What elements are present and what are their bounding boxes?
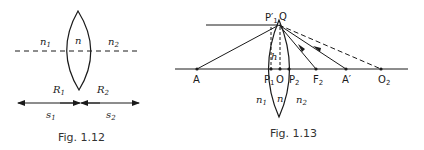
label-P2: P2 [289,74,300,87]
label-n2: n2 [296,94,307,107]
caption-fig-1-13: Fig. 1.13 [270,127,317,140]
point-P1 [269,67,272,70]
label-n: n [277,93,283,104]
label-O: O [276,74,284,85]
arrow-on-Aprime-ray [313,46,321,52]
label-F2: F2 [313,74,323,87]
label-h: h [271,51,277,62]
label-n1: n1 [256,94,267,107]
label-Pprime: P′1 [265,12,278,25]
point-P2 [287,67,290,70]
label-s1: s1 [46,109,56,122]
point-O [278,67,281,70]
label-n1: n1 [40,36,51,49]
label-n: n [75,35,81,46]
point-O2 [379,67,382,70]
label-Q: Q [279,11,287,22]
caption-fig-1-12: Fig. 1.12 [58,131,105,144]
label-n2: n2 [108,36,119,49]
label-O2: O2 [378,74,390,87]
label-Aprime: A′ [342,74,352,85]
label-A: A [193,74,200,85]
figure-1-12: n1 n n2 R1 R2 s1 s2 Fig. 1.12 [15,11,139,144]
label-P1: P1 [264,74,275,87]
point-F2 [314,67,317,70]
label-s2: s2 [106,109,116,122]
diagram-canvas: n1 n n2 R1 R2 s1 s2 Fig. 1.12 [0,0,424,150]
point-Aprime [344,67,347,70]
label-R1: R1 [52,84,65,97]
arrow-on-F2-ray [298,44,305,52]
figure-1-13: P′1 Q h A P1 O P2 F2 A′ O2 n1 n n2 Fig. … [175,11,408,140]
ray-A-to-Q [197,25,279,69]
label-R2: R2 [96,84,110,97]
dashed-ray-Q-to-O2 [279,25,381,69]
ray-Q-to-F2 [279,25,316,69]
point-A [195,67,198,70]
